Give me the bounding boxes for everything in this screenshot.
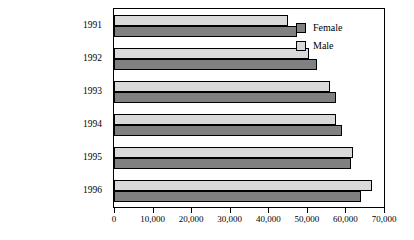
x-tick-40000 <box>268 208 269 213</box>
bar-female-1993 <box>114 92 336 103</box>
x-tick-label-30000: 30,000 <box>217 214 242 224</box>
x-tick-label-40000: 40,000 <box>256 214 281 224</box>
bar-female-1996 <box>114 191 361 202</box>
bar-chart: 010,00020,00030,00040,00050,00060,00070,… <box>0 0 414 240</box>
male-swatch-icon <box>296 41 306 51</box>
y-label-1991: 1991 <box>83 20 102 30</box>
y-axis-category-labels: 199119921993199419951996 <box>0 8 110 208</box>
bar-male-1995 <box>114 147 353 158</box>
x-tick-label-50000: 50,000 <box>294 214 319 224</box>
legend-label-female: Female <box>313 22 342 33</box>
bar-male-1993 <box>114 81 330 92</box>
x-axis-tick-labels: 010,00020,00030,00040,00050,00060,00070,… <box>0 214 414 230</box>
x-tick-60000 <box>345 208 346 213</box>
bar-male-1994 <box>114 114 336 125</box>
x-tick-0 <box>114 208 115 213</box>
x-tick-label-70000: 70,000 <box>372 214 397 224</box>
y-label-1993: 1993 <box>83 86 102 96</box>
legend-item-male: Male <box>296 40 376 51</box>
chart-legend: Female Male <box>296 22 376 58</box>
bar-female-1991 <box>114 26 297 37</box>
legend-label-male: Male <box>313 40 334 51</box>
x-tick-10000 <box>153 208 154 213</box>
bar-female-1992 <box>114 59 317 70</box>
bar-male-1991 <box>114 15 288 26</box>
x-tick-label-20000: 20,000 <box>179 214 204 224</box>
y-label-1996: 1996 <box>83 185 102 195</box>
female-swatch-icon <box>296 23 306 33</box>
bar-male-1996 <box>114 180 372 191</box>
bar-female-1994 <box>114 125 342 136</box>
x-tick-50000 <box>307 208 308 213</box>
x-tick-label-0: 0 <box>112 214 117 224</box>
legend-item-female: Female <box>296 22 376 33</box>
y-label-1992: 1992 <box>83 53 102 63</box>
x-tick-70000 <box>384 208 385 213</box>
x-tick-20000 <box>191 208 192 213</box>
x-tick-30000 <box>230 208 231 213</box>
x-tick-label-10000: 10,000 <box>140 214 165 224</box>
x-tick-label-60000: 60,000 <box>333 214 358 224</box>
bar-female-1995 <box>114 158 351 169</box>
y-label-1995: 1995 <box>83 152 102 162</box>
bar-male-1992 <box>114 48 309 59</box>
y-label-1994: 1994 <box>83 119 102 129</box>
